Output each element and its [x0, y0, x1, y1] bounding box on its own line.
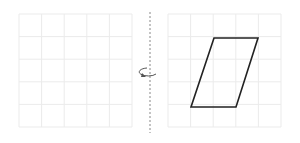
diagram-canvas — [0, 0, 300, 143]
right-grid — [168, 14, 281, 127]
parallelogram-shape — [191, 38, 258, 107]
rotation-arrow-icon — [139, 68, 156, 77]
left-grid — [19, 14, 132, 127]
